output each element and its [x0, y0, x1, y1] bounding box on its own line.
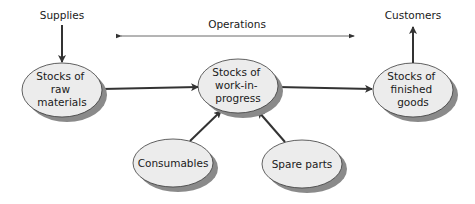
- node-text-line: finished: [391, 83, 432, 95]
- node-text-line: Consumables: [138, 157, 209, 169]
- wip-to-finished-arrow: [278, 87, 372, 89]
- raw-to-wip-arrow: [102, 87, 198, 89]
- node-text-line: Stocks of: [212, 66, 260, 78]
- spare-to-wip-arrow: [258, 111, 285, 142]
- node-consumables: Consumables: [133, 139, 218, 192]
- operations-label: Operations: [208, 18, 266, 30]
- consumables-to-wip-arrow: [190, 111, 221, 141]
- node-text-line: work-in-: [215, 79, 258, 91]
- node-spare-parts: Spare parts: [262, 140, 347, 193]
- node-text-line: goods: [397, 96, 429, 108]
- supplies-label: Supplies: [40, 9, 84, 21]
- node-work-in-progress: Stocks of work-in- progress: [198, 59, 283, 118]
- node-text-line: materials: [37, 96, 86, 108]
- node-text-line: progress: [215, 92, 260, 104]
- node-text-line: Stocks of: [36, 70, 84, 82]
- inventory-diagram: Supplies Operations Customers Stocks of …: [0, 0, 475, 204]
- customers-label: Customers: [385, 9, 441, 21]
- svg-text:Stocks of work-in-: Stocks of work-in- progress: [212, 66, 263, 104]
- node-text-line: Spare parts: [272, 158, 333, 170]
- node-text-line: Stocks of: [387, 70, 435, 82]
- node-finished-goods: Stocks of finished goods: [373, 63, 458, 122]
- node-text-line: raw: [51, 83, 71, 95]
- node-raw-materials: Stocks of raw materials: [22, 63, 107, 122]
